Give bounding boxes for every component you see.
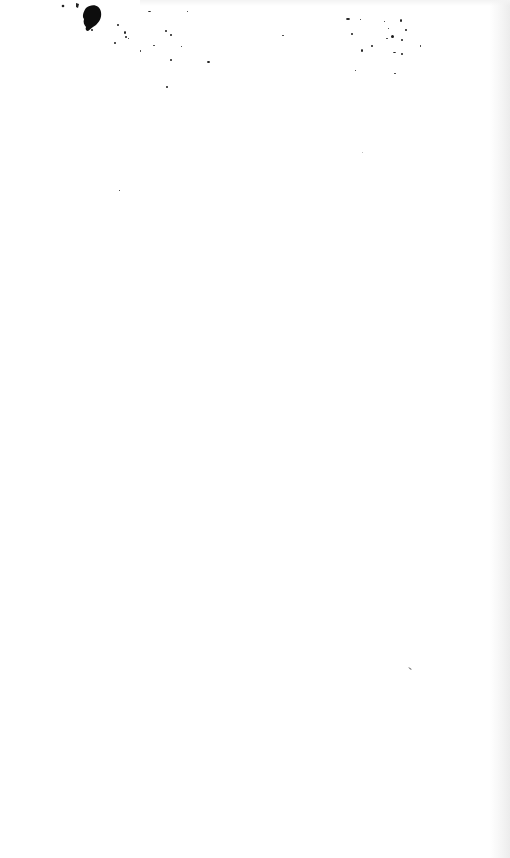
- ink-blot: [0, 0, 510, 100]
- scanned-page: [0, 0, 510, 858]
